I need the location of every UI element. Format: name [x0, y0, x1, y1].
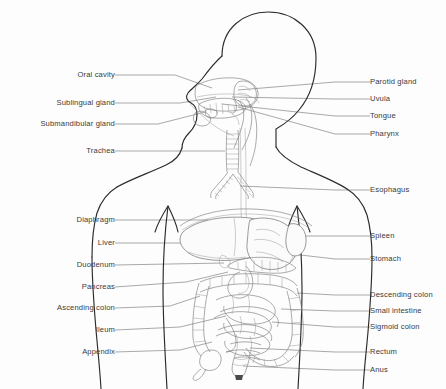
leader-pharynx — [238, 107, 370, 134]
label-uvula: Uvula — [370, 95, 390, 103]
leader-sigmoid-colon — [272, 322, 370, 327]
rectum-fold-1 — [234, 358, 249, 360]
leader-esophagus — [240, 186, 370, 190]
leader-parotid-gland — [238, 82, 370, 90]
label-anus: Anus — [370, 366, 388, 374]
tracheal-rings — [226, 134, 239, 169]
label-sigmoid-colon: Sigmoid colon — [370, 323, 420, 331]
rectum-right-wall — [246, 352, 250, 370]
trachea-right-wall — [238, 130, 239, 172]
esophagus-left-wall — [240, 128, 243, 230]
leader-descending-colon — [297, 293, 370, 295]
nasal-oral-cavity-outline — [195, 78, 258, 111]
appendix-outline — [193, 369, 206, 380]
parotid-gland-outline — [234, 81, 257, 106]
face-profile-outline — [182, 56, 222, 148]
duodenum-inner-wall — [238, 272, 249, 293]
label-parotid-gland: Parotid gland — [370, 78, 417, 86]
leader-oral-cavity — [115, 75, 212, 88]
label-rectum: Rectum — [370, 348, 397, 356]
label-pancreas: Pancreas — [82, 283, 115, 291]
spleen-outline — [286, 224, 306, 256]
torso-left-outline — [92, 257, 101, 389]
neck-left-outline — [117, 148, 182, 187]
label-oral-cavity: Oral cavity — [77, 71, 115, 79]
transverse-colon-upper — [200, 274, 297, 286]
trachea-left-wall — [226, 130, 227, 172]
head-cranium-outline — [222, 12, 316, 147]
label-liver: Liver — [98, 239, 115, 247]
neck-right-outline — [276, 147, 347, 189]
label-descending-colon: Descending colon — [370, 291, 433, 299]
cervical-spine-outline — [250, 104, 257, 166]
label-stomach: Stomach — [370, 255, 401, 263]
leader-appendix — [115, 342, 212, 352]
parotid-gland-texture — [238, 86, 251, 102]
shoulder-right-outline — [347, 189, 372, 258]
body-outline — [92, 12, 372, 389]
leader-duodenum — [115, 263, 224, 265]
hip-left-outline — [163, 206, 168, 389]
label-diaphragm: Diaphragm — [77, 216, 116, 224]
label-submandibular-gland: Submandibular gland — [40, 120, 115, 128]
anatomy-diagram: Oral cavity Sublingual gland Submandibul… — [0, 0, 446, 389]
label-spleen: Spleen — [370, 232, 395, 240]
sigmoid-colon-lower — [246, 348, 286, 361]
leader-rectum — [250, 348, 370, 352]
leader-ascending-colon — [115, 296, 200, 308]
label-ileum: Ileum — [96, 326, 115, 334]
ileum-outline — [226, 318, 236, 352]
rectum-fold-2 — [233, 364, 247, 366]
abdominal-organs — [180, 209, 312, 380]
rectum-left-wall — [232, 352, 236, 370]
descending-colon-inner — [286, 291, 292, 352]
leader-anus — [243, 366, 370, 370]
leader-ileum — [115, 316, 226, 330]
transverse-colon-haustra — [210, 273, 282, 289]
leader-submandibular-gland — [115, 112, 205, 124]
label-esophagus: Esophagus — [370, 186, 409, 194]
esophagus-right-wall — [245, 128, 248, 230]
label-small-intestine: Small intestine — [370, 307, 422, 315]
label-tongue: Tongue — [370, 112, 396, 120]
leader-small-intestine — [281, 309, 370, 311]
cecum-outline — [200, 350, 222, 371]
label-trachea: Trachea — [86, 147, 115, 155]
bronchus-left — [211, 172, 228, 198]
leader-pancreas — [115, 272, 228, 287]
head-internal-anatomy — [190, 78, 259, 166]
leader-sublingual-gland — [115, 97, 216, 103]
anus-marker — [235, 375, 243, 380]
label-appendix: Appendix — [82, 348, 115, 356]
label-ascending-colon: Ascending colon — [57, 304, 115, 312]
small-intestine-coils — [214, 295, 278, 360]
label-sublingual-gland: Sublingual gland — [56, 99, 115, 107]
label-duodenum: Duodenum — [77, 261, 115, 269]
label-pharynx: Pharynx — [370, 130, 399, 138]
